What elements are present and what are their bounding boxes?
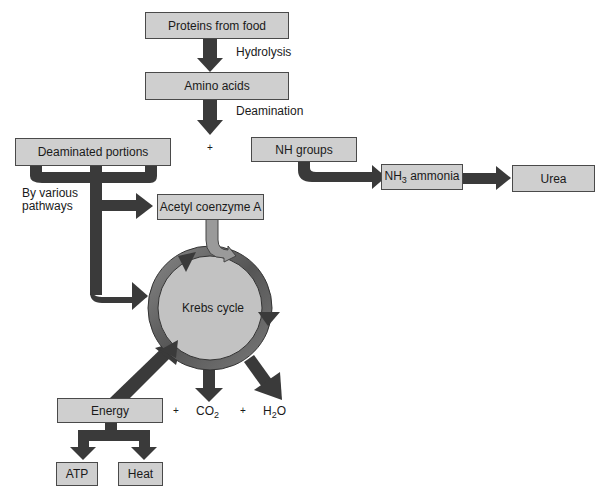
node-label: Heat (128, 467, 153, 481)
label-co2: CO2 (196, 404, 219, 420)
node-acetyl-coenzyme-a: Acetyl coenzyme A (157, 194, 264, 220)
arrow-hydrolysis (203, 38, 217, 60)
node-label: Amino acids (184, 79, 249, 93)
node-label: ATP (66, 467, 88, 481)
node-heat: Heat (118, 462, 163, 486)
node-atp: ATP (56, 462, 98, 486)
label-hydrolysis: Hydrolysis (236, 45, 291, 59)
label-line-2: pathways (22, 199, 73, 213)
label-by-various-pathways: By variouspathways (22, 187, 78, 213)
node-label: Proteins from food (168, 19, 266, 33)
nh-text: NH (384, 169, 401, 183)
h-text: H (263, 404, 272, 418)
plus-sign: + (207, 142, 213, 153)
node-deaminated-portions: Deaminated portions (15, 138, 171, 166)
node-label: Urea (540, 172, 566, 186)
plus-sign: + (173, 405, 179, 416)
node-energy: Energy (57, 398, 163, 423)
label-deamination: Deamination (236, 104, 303, 118)
node-label: Deaminated portions (38, 145, 149, 159)
co-text: CO (196, 404, 214, 418)
node-nh3-ammonia: NH3 ammonia (381, 164, 463, 190)
node-krebs-cycle: Krebs cycle (182, 301, 244, 315)
node-nh-groups: NH groups (251, 137, 357, 162)
plus-sign: + (240, 405, 246, 416)
node-label: Acetyl coenzyme A (160, 200, 261, 214)
node-label: Energy (91, 404, 129, 418)
subscript: 2 (214, 410, 219, 420)
label-h2o: H2O (263, 404, 286, 420)
ammonia-text: ammonia (407, 169, 460, 183)
node-label: NH3 ammonia (384, 169, 459, 185)
node-label: NH groups (275, 143, 332, 157)
label-line-1: By various (22, 186, 78, 200)
node-amino-acids: Amino acids (145, 72, 289, 100)
node-urea: Urea (512, 165, 595, 192)
node-proteins-from-food: Proteins from food (145, 12, 289, 39)
o-text: O (277, 404, 286, 418)
